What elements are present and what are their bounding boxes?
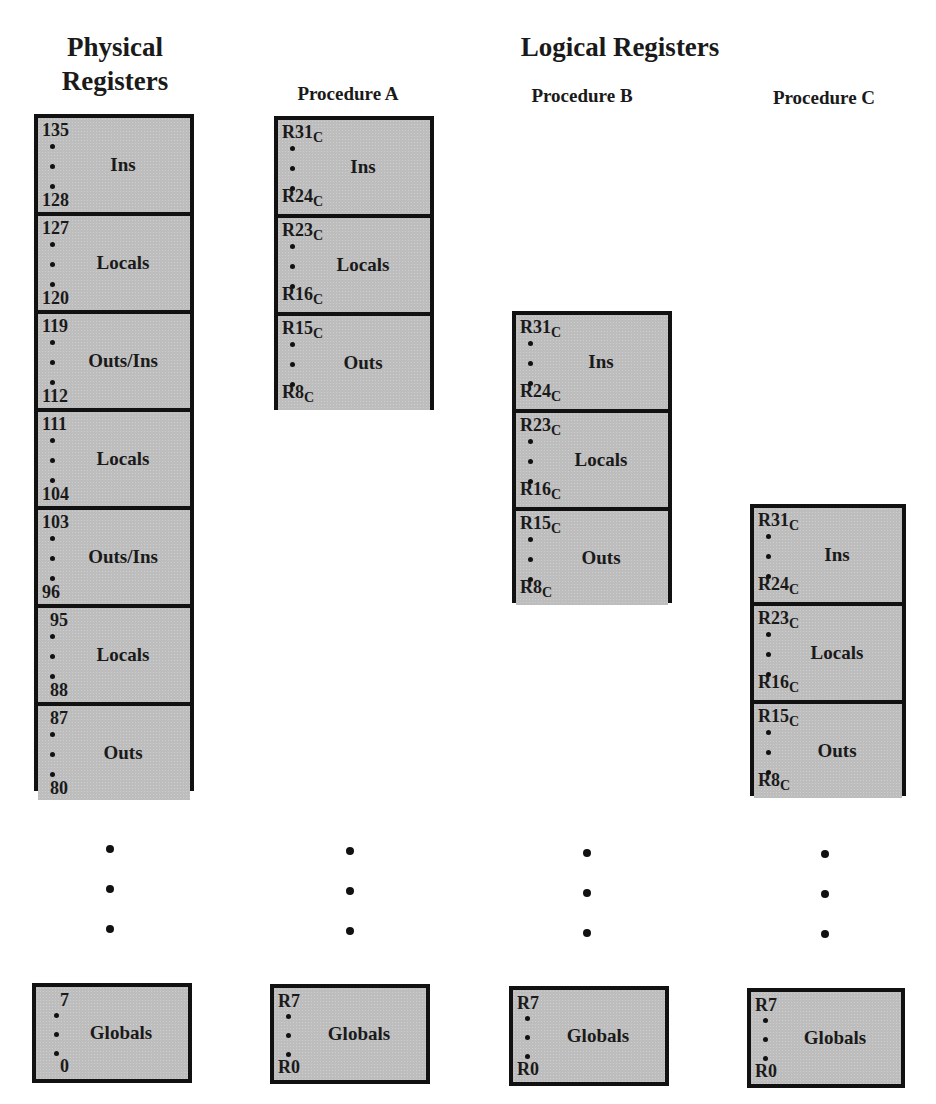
- register-high: R15C: [758, 707, 799, 731]
- register-low: 112: [42, 387, 68, 405]
- register-high: 119: [42, 317, 68, 335]
- register-high: R7: [278, 992, 300, 1010]
- window-label: Outs: [516, 547, 668, 569]
- proc-c-window-outs: R15C Outs R8C: [754, 704, 902, 798]
- register-low: 96: [42, 583, 60, 601]
- physical-register-stack: 135 Ins 128 127 Locals 120 119 Outs/Ins …: [34, 114, 194, 791]
- window-label: Outs: [278, 352, 430, 374]
- register-low: R24C: [282, 187, 323, 211]
- register-low: 80: [50, 779, 68, 797]
- window-label: Locals: [278, 254, 430, 276]
- register-high: R15C: [282, 319, 323, 343]
- register-high: 95: [50, 611, 68, 629]
- window-label: Outs/Ins: [38, 546, 190, 568]
- physical-window-outs-ins: 103 Outs/Ins 96: [38, 510, 190, 608]
- register-low: R16C: [520, 480, 561, 504]
- procedure-b-register-stack: R31C Ins R24C R23C Locals R16C R15C Outs…: [512, 311, 672, 603]
- physical-window-ins: 135 Ins 128: [38, 118, 190, 216]
- proc-a-globals: R7 Globals R0: [270, 984, 430, 1084]
- logical-registers-title: Logical Registers: [430, 30, 810, 64]
- register-high: 7: [60, 991, 69, 1009]
- register-low: 120: [42, 289, 69, 307]
- window-label: Outs/Ins: [38, 350, 190, 372]
- register-high: R31C: [520, 318, 561, 342]
- proc-a-window-locals: R23C Locals R16C: [278, 218, 430, 316]
- window-label: Ins: [278, 156, 430, 178]
- register-high: R15C: [520, 514, 561, 538]
- physical-window-outs: 87 Outs 80: [38, 706, 190, 800]
- register-low: 88: [50, 681, 68, 699]
- register-low: R24C: [758, 575, 799, 599]
- register-low: R8C: [520, 578, 552, 602]
- window-label: Ins: [516, 351, 668, 373]
- register-high: R31C: [282, 123, 323, 147]
- physical-window-locals: 95 Locals 88: [38, 608, 190, 706]
- proc-c-gap-ellipsis-icon: [821, 850, 829, 940]
- physical-registers-title: Physical Registers: [30, 30, 200, 98]
- register-high: R7: [755, 996, 777, 1014]
- physical-window-locals: 127 Locals 120: [38, 216, 190, 314]
- register-low: R16C: [282, 285, 323, 309]
- register-high: R23C: [282, 221, 323, 245]
- proc-a-gap-ellipsis-icon: [346, 847, 354, 937]
- physical-title-line1: Physical: [30, 30, 200, 64]
- procedure-c-title: Procedure C: [734, 87, 914, 109]
- register-high: 103: [42, 513, 69, 531]
- proc-b-window-ins: R31C Ins R24C: [516, 315, 668, 413]
- register-low: R16C: [758, 673, 799, 697]
- physical-globals: 7 Globals 0: [32, 983, 192, 1083]
- register-low: R0: [755, 1062, 777, 1080]
- register-low: R0: [517, 1060, 539, 1078]
- window-label: Locals: [38, 252, 190, 274]
- physical-gap-ellipsis-icon: [106, 845, 114, 935]
- proc-b-window-outs: R15C Outs R8C: [516, 511, 668, 605]
- proc-c-window-ins: R31C Ins R24C: [754, 508, 902, 606]
- proc-b-window-locals: R23C Locals R16C: [516, 413, 668, 511]
- proc-c-window-locals: R23C Locals R16C: [754, 606, 902, 704]
- window-label: Globals: [36, 1022, 188, 1044]
- window-label: Globals: [513, 1025, 665, 1047]
- register-low: 0: [60, 1057, 69, 1075]
- window-label: Outs: [754, 740, 902, 762]
- procedure-a-title: Procedure A: [258, 83, 438, 105]
- proc-b-globals: R7 Globals R0: [509, 986, 669, 1086]
- register-high: R23C: [758, 609, 799, 633]
- window-label: Locals: [754, 642, 902, 664]
- window-label: Globals: [274, 1023, 426, 1045]
- register-high: 87: [50, 709, 68, 727]
- register-high: R23C: [520, 416, 561, 440]
- window-label: Locals: [516, 449, 668, 471]
- window-label: Locals: [38, 448, 190, 470]
- proc-a-window-outs: R15C Outs R8C: [278, 316, 430, 410]
- register-high: 127: [42, 219, 69, 237]
- register-high: R7: [517, 994, 539, 1012]
- register-low: 128: [42, 191, 69, 209]
- proc-b-gap-ellipsis-icon: [583, 849, 591, 939]
- window-label: Locals: [38, 644, 190, 666]
- register-low: R24C: [520, 382, 561, 406]
- register-low: 104: [42, 485, 69, 503]
- window-label: Outs: [38, 742, 190, 764]
- register-low: R8C: [282, 383, 314, 407]
- register-low: R8C: [758, 771, 790, 795]
- register-low: R0: [278, 1058, 300, 1076]
- procedure-c-register-stack: R31C Ins R24C R23C Locals R16C R15C Outs…: [750, 504, 906, 796]
- register-high: 135: [42, 121, 69, 139]
- register-high: R31C: [758, 511, 799, 535]
- register-high: 111: [42, 415, 67, 433]
- physical-title-line2: Registers: [30, 64, 200, 98]
- window-label: Ins: [38, 154, 190, 176]
- procedure-a-register-stack: R31C Ins R24C R23C Locals R16C R15C Outs…: [274, 116, 434, 410]
- physical-window-locals: 111 Locals 104: [38, 412, 190, 510]
- window-label: Ins: [754, 544, 902, 566]
- window-label: Globals: [751, 1027, 901, 1049]
- procedure-b-title: Procedure B: [492, 85, 672, 107]
- physical-window-outs-ins: 119 Outs/Ins 112: [38, 314, 190, 412]
- proc-a-window-ins: R31C Ins R24C: [278, 120, 430, 218]
- proc-c-globals: R7 Globals R0: [747, 988, 905, 1088]
